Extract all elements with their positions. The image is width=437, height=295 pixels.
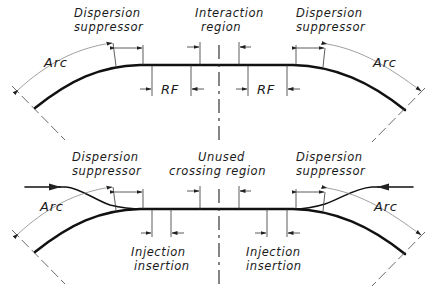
bottom-injection-right-line xyxy=(293,187,378,209)
top-ds-left-ext1 xyxy=(113,43,116,66)
bottom-ucr-label-1: Unused xyxy=(198,150,245,164)
bottom-ds-left-label-2: suppressor xyxy=(72,164,142,178)
top-arc-right-end-tick xyxy=(372,88,425,142)
top-rf-left-label: RF xyxy=(161,82,179,97)
bottom-inj-right-label-2: insertion xyxy=(246,259,302,273)
bottom-arc-left-end-tick xyxy=(12,230,65,284)
top-ds-right-label-1: Dispersion xyxy=(296,6,363,20)
lattice-diagram: Dispersion suppressor Interaction region… xyxy=(0,0,437,295)
bottom-arc-left-dimension xyxy=(18,187,112,234)
bottom-diagram: Dispersion suppressor Unused crossing re… xyxy=(12,150,425,286)
top-arc-left-label: Arc xyxy=(43,55,68,70)
bottom-ds-right-label-1: Dispersion xyxy=(296,150,363,164)
top-ds-left-label-2: suppressor xyxy=(74,20,144,34)
top-ir-label-1: Interaction xyxy=(195,6,264,20)
top-ds-right-label-2: suppressor xyxy=(296,20,366,34)
top-arc-left-end-tick xyxy=(12,86,65,140)
bottom-inj-left-label-1: Injection xyxy=(131,245,186,259)
top-diagram: Dispersion suppressor Interaction region… xyxy=(12,6,425,142)
top-arc-right-label: Arc xyxy=(372,55,397,70)
bottom-ds-right-label-2: suppressor xyxy=(296,164,366,178)
bottom-arc-left-label: Arc xyxy=(39,199,64,214)
bottom-ds-left-label-1: Dispersion xyxy=(72,150,139,164)
bottom-arc-right-end-tick xyxy=(372,232,425,286)
top-ds-left-label-1: Dispersion xyxy=(74,6,141,20)
top-beam-line xyxy=(35,65,405,110)
bottom-inj-right-label-1: Injection xyxy=(246,245,301,259)
top-rf-right-label: RF xyxy=(257,82,275,97)
top-ds-right-ext2 xyxy=(323,48,325,67)
bottom-ds-right-ext2 xyxy=(323,192,325,211)
bottom-ucr-label-2: crossing region xyxy=(169,164,266,178)
bottom-inj-left-label-2: insertion xyxy=(134,259,190,273)
bottom-arc-right-label: Arc xyxy=(373,199,398,214)
top-ir-label-2: region xyxy=(201,20,241,34)
bottom-beam-line xyxy=(35,209,405,254)
